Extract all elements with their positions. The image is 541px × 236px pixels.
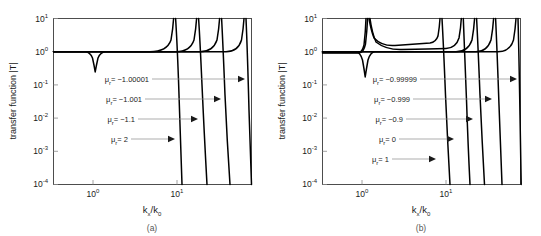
y-tick-marks [323, 19, 328, 185]
annotation-mu-0: μr= −0.99999 [373, 75, 417, 86]
xtick-exp-1: 1 [449, 188, 453, 194]
svg-text:10-2: 10-2 [302, 112, 317, 123]
ytick-exp-5: -4 [312, 178, 318, 184]
ytick-mant-0: 10 [304, 14, 314, 24]
ytick-exp-2: -1 [43, 79, 49, 85]
x-tick-labels: 100 101 [87, 188, 184, 199]
ytick-exp-4: -3 [312, 145, 318, 151]
svg-text:101: 101 [35, 13, 48, 24]
y-tick-marks [54, 19, 59, 185]
curve-mu-0p999 [323, 19, 503, 185]
ytick-mant-2: 10 [33, 80, 43, 90]
plot-frame [54, 19, 252, 185]
panel-caption-b: (b) [416, 223, 427, 233]
annotation-mu-4: μr= 1 [372, 155, 389, 166]
ytick-mant-5: 10 [33, 179, 43, 189]
y-axis-label: transfer function |T| [277, 62, 287, 139]
annotations-a: μr= −1.00001 μr= −1.001 μr= −1.1 μr= 2 [105, 75, 149, 146]
ytick-exp-0: 1 [314, 13, 318, 19]
svg-text:10-3: 10-3 [33, 145, 48, 156]
xtick-exp-1: 1 [180, 188, 184, 194]
svg-text:100: 100 [356, 188, 369, 199]
annotation-mu-1: μr= −1.001 [106, 95, 142, 106]
svg-text:101: 101 [304, 13, 317, 24]
curve-mu-1p00001 [54, 19, 252, 185]
xtick-mant-0: 10 [356, 189, 366, 199]
panel-caption-a: (a) [147, 223, 158, 233]
x-axis-label: kx/k0 [143, 204, 162, 217]
ytick-mant-1: 10 [35, 47, 45, 57]
annotations-b: μr= −0.99999 μr= −0.999 μr= −0.9 μr= 0 μ… [372, 75, 417, 166]
ytick-exp-2: -1 [312, 79, 318, 85]
y-tick-labels: 101 100 10-1 10-2 10-3 10-4 [302, 13, 317, 189]
svg-text:10-1: 10-1 [33, 79, 48, 90]
curves-b [323, 19, 522, 185]
ytick-exp-1: 0 [45, 46, 49, 52]
ytick-mant-5: 10 [302, 179, 312, 189]
plot-svg-a: 101 100 10-1 10-2 10-3 10-4 100 101 kx/k… [0, 0, 270, 236]
svg-text:101: 101 [440, 188, 453, 199]
ytick-mant-1: 10 [304, 47, 314, 57]
svg-text:101: 101 [171, 188, 184, 199]
ytick-mant-0: 10 [35, 14, 45, 24]
annotation-mu-2: μr= −0.9 [375, 115, 403, 126]
svg-text:10-3: 10-3 [302, 145, 317, 156]
curves-a [54, 19, 252, 185]
ytick-mant-3: 10 [302, 113, 312, 123]
annotation-mu-1: μr= −0.999 [374, 95, 410, 106]
x-axis-label: kx/k0 [412, 204, 431, 217]
plot-area-a: 101 100 10-1 10-2 10-3 10-4 100 101 kx/k… [8, 13, 252, 233]
x-tick-marks [93, 180, 177, 185]
chart-panel-a: 101 100 10-1 10-2 10-3 10-4 100 101 kx/k… [0, 0, 270, 236]
x-tick-labels: 100 101 [356, 188, 453, 199]
ytick-exp-3: -2 [43, 112, 49, 118]
plot-area-b: 101 100 10-1 10-2 10-3 10-4 100 101 kx/k… [277, 13, 521, 233]
ytick-exp-5: -4 [43, 178, 49, 184]
ytick-exp-3: -2 [312, 112, 318, 118]
svg-text:10-4: 10-4 [302, 178, 317, 189]
ytick-mant-2: 10 [302, 80, 312, 90]
ytick-exp-4: -3 [43, 145, 49, 151]
ytick-exp-0: 1 [45, 13, 49, 19]
annotation-mu-3: μr= 0 [379, 135, 396, 146]
xtick-mant-1: 10 [440, 189, 450, 199]
svg-text:100: 100 [304, 46, 317, 57]
svg-text:10-4: 10-4 [33, 178, 48, 189]
xtick-mant-1: 10 [171, 189, 181, 199]
svg-text:10-1: 10-1 [302, 79, 317, 90]
y-axis-label: transfer function |T| [8, 62, 18, 139]
ytick-mant-3: 10 [33, 113, 43, 123]
xtick-exp-0: 0 [365, 188, 369, 194]
ytick-mant-4: 10 [33, 146, 43, 156]
annotation-mu-2: μr= −1.1 [107, 115, 135, 126]
annotation-leaders-a [131, 76, 245, 142]
annotation-mu-3: μr= 2 [111, 135, 128, 146]
x-tick-marks [362, 180, 446, 185]
annotation-mu-0: μr= −1.00001 [105, 75, 149, 86]
svg-text:100: 100 [87, 188, 100, 199]
plot-svg-b: 101 100 10-1 10-2 10-3 10-4 100 101 kx/k… [270, 0, 541, 236]
xtick-mant-0: 10 [87, 189, 97, 199]
y-tick-labels: 101 100 10-1 10-2 10-3 10-4 [33, 13, 48, 189]
chart-panel-b: 101 100 10-1 10-2 10-3 10-4 100 101 kx/k… [270, 0, 540, 236]
ytick-exp-1: 0 [314, 46, 318, 52]
ytick-mant-4: 10 [302, 146, 312, 156]
svg-text:100: 100 [35, 46, 48, 57]
figure-root: 101 100 10-1 10-2 10-3 10-4 100 101 kx/k… [0, 0, 541, 236]
xtick-exp-0: 0 [96, 188, 100, 194]
svg-text:10-2: 10-2 [33, 112, 48, 123]
